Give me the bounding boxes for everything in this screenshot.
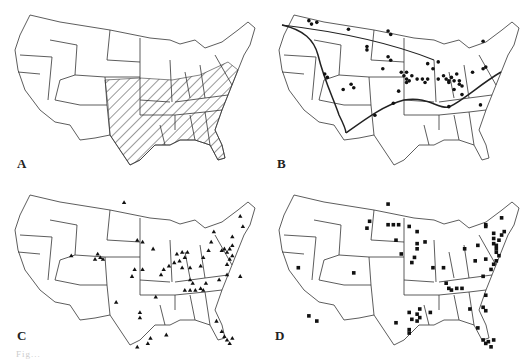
square-marker <box>489 345 493 349</box>
triangle-marker <box>206 248 210 252</box>
square-marker <box>484 257 488 261</box>
square-marker <box>500 216 504 220</box>
square-marker <box>415 319 419 323</box>
triangle-marker <box>227 247 231 251</box>
triangle-marker <box>138 310 142 314</box>
square-marker <box>484 225 488 229</box>
triangle-marker <box>146 341 150 345</box>
triangle-marker <box>193 288 197 292</box>
square-marker <box>399 252 403 256</box>
circle-marker <box>399 70 403 74</box>
square-marker <box>484 309 488 313</box>
circle-marker <box>447 81 451 85</box>
circle-marker <box>405 70 409 74</box>
triangle-marker <box>225 338 229 342</box>
square-marker <box>407 328 411 332</box>
circle-marker <box>481 39 485 43</box>
map-panel-a: A <box>0 0 264 172</box>
circle-marker <box>386 55 390 59</box>
circle-marker <box>373 113 377 117</box>
circle-marker <box>392 101 396 105</box>
panel-label: B <box>277 156 286 172</box>
triangle-marker <box>191 281 195 285</box>
square-marker <box>487 340 491 344</box>
panel-label: D <box>275 328 284 344</box>
square-marker <box>394 238 398 242</box>
triangle-marker <box>214 319 218 323</box>
triangle-marker <box>230 336 234 340</box>
triangle-marker <box>180 266 184 270</box>
boundary-line-north <box>282 25 434 60</box>
square-marker <box>463 247 467 251</box>
square-marker <box>444 281 448 285</box>
triangle-marker <box>188 288 192 292</box>
square-marker <box>415 312 419 316</box>
circle-marker <box>447 105 451 109</box>
square-marker <box>315 319 319 323</box>
map-panel-d: D <box>264 180 528 352</box>
square-marker <box>500 233 504 237</box>
square-marker <box>468 307 472 311</box>
square-marker <box>492 338 496 342</box>
triangle-marker <box>238 274 242 278</box>
square-marker <box>495 259 499 263</box>
triangle-marker <box>225 262 229 266</box>
triangle-marker <box>198 286 202 290</box>
square-marker <box>481 305 485 309</box>
circle-marker <box>484 65 488 69</box>
square-marker <box>495 247 499 251</box>
triangle-marker <box>140 240 144 244</box>
square-marker <box>386 223 390 227</box>
square-marker <box>476 326 480 330</box>
triangle-marker <box>212 229 216 233</box>
circle-marker <box>421 77 425 81</box>
triangle-marker <box>222 334 226 338</box>
circle-marker <box>460 93 464 97</box>
square-marker <box>365 226 369 230</box>
square-marker <box>394 321 398 325</box>
circle-marker <box>389 33 393 37</box>
triangle-marker <box>140 267 144 271</box>
square-marker <box>352 271 356 275</box>
triangle-marker <box>198 264 202 268</box>
square-marker <box>481 275 485 279</box>
triangle-marker <box>167 264 171 268</box>
triangle-marker <box>151 247 155 251</box>
circle-marker <box>452 79 456 83</box>
us-map-a <box>0 0 264 172</box>
square-marker <box>431 266 435 270</box>
triangle-marker <box>148 336 152 340</box>
triangle-marker <box>138 315 142 319</box>
square-marker <box>407 225 411 229</box>
circle-marker <box>326 76 330 80</box>
square-marker <box>415 247 419 251</box>
square-marker <box>484 293 488 297</box>
square-marker <box>495 250 499 254</box>
circle-marker <box>455 72 459 76</box>
square-marker <box>492 237 496 241</box>
panel-label: A <box>17 156 26 172</box>
circle-marker <box>389 58 393 62</box>
triangle-marker <box>95 252 99 256</box>
square-marker <box>495 244 499 248</box>
us-map-d <box>264 180 528 352</box>
square-marker <box>492 232 496 236</box>
square-marker <box>413 256 417 260</box>
circle-marker <box>323 72 327 76</box>
circle-marker <box>365 48 369 52</box>
triangle-marker <box>130 274 134 278</box>
map-panel-b: B <box>264 0 528 172</box>
square-marker <box>473 259 477 263</box>
square-marker <box>429 311 433 315</box>
square-marker <box>415 242 419 246</box>
triangle-marker <box>230 243 234 247</box>
triangle-marker <box>159 272 163 276</box>
triangle-marker <box>135 345 139 349</box>
triangle-marker <box>217 278 221 282</box>
circle-marker <box>347 27 351 31</box>
square-marker <box>386 202 390 206</box>
triangle-marker <box>204 281 208 285</box>
triangle-marker <box>188 266 192 270</box>
triangle-marker <box>230 253 234 257</box>
square-marker <box>418 316 422 320</box>
